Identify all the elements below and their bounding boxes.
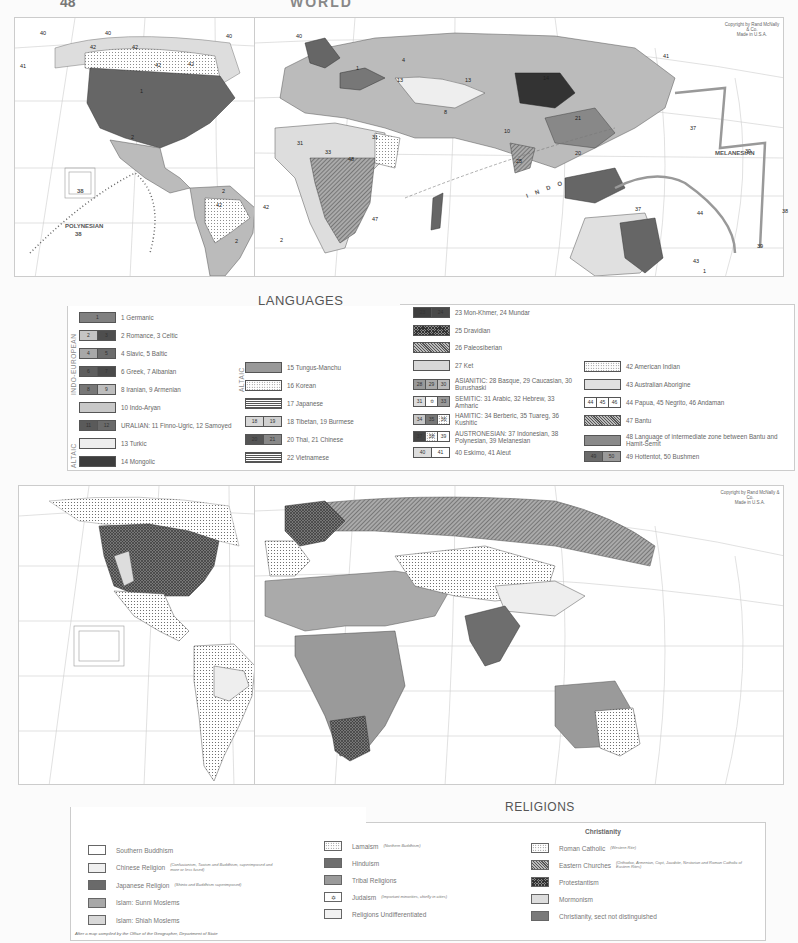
inset-number: 38 xyxy=(77,188,84,194)
language-legend-item: 48 Language of intermediate zone between… xyxy=(584,433,789,447)
legend-swatch: 444546 xyxy=(584,397,621,408)
legend-label: 43 Australian Aborigine xyxy=(626,381,690,388)
page-heading: WORLD xyxy=(290,0,353,10)
legend-label: 18 Tibetan, 19 Burmese xyxy=(287,418,354,425)
legend-label: Protestantism xyxy=(559,879,599,886)
legend-swatch xyxy=(413,360,450,371)
swatch-cell: 4 xyxy=(80,349,98,358)
americas-religions-map xyxy=(19,486,254,785)
legend-label: Hinduism xyxy=(352,860,379,867)
legend-swatch xyxy=(88,880,106,890)
legend-note: (Shinto and Buddhism superimposed) xyxy=(174,883,241,888)
map-region-number: 37 xyxy=(690,125,696,131)
map-region-number: 31 xyxy=(372,134,378,140)
legend-label: 13 Turkic xyxy=(121,440,147,447)
legend-swatch xyxy=(584,435,621,446)
map-region-number: 1 xyxy=(703,268,706,274)
legend-label: 26 Paleosiberian xyxy=(455,344,502,351)
legend-label: ASIANITIC: 28 Basque, 29 Caucasian, 30 B… xyxy=(455,377,578,391)
swatch-cell: 24 xyxy=(432,308,449,317)
source-credit: After a map compiled by the Office of th… xyxy=(75,931,218,936)
legend-label: HAMITIC: 34 Berberic, 35 Tuareg, 36 Kush… xyxy=(455,412,578,426)
page-number: 48 xyxy=(60,0,76,10)
legend-label: URALIAN: 11 Finno-Ugric, 12 Samoyed xyxy=(121,422,231,429)
swatch-cell: 44 xyxy=(585,398,597,407)
language-legend-item: 898 Iranian, 9 Armenian xyxy=(79,384,244,395)
swatch-cell xyxy=(80,403,115,412)
swatch-cell: 34 xyxy=(414,415,426,424)
swatch-cell xyxy=(80,439,115,448)
language-legend-item: 10 Indo-Aryan xyxy=(79,402,244,413)
legend-label: Eastern Churches xyxy=(559,862,611,869)
swatch-cell xyxy=(246,381,281,390)
religion-legend-item: Religions Undifferentiated xyxy=(324,909,426,919)
swatch-cell: 50 xyxy=(603,452,620,461)
swatch-cell: 30 xyxy=(438,380,449,389)
map-region-number: 48 xyxy=(348,156,354,162)
swatch-cell xyxy=(414,361,449,370)
religion-legend-item: Mormonism xyxy=(531,894,593,904)
map-region-number: 40 xyxy=(40,30,46,36)
religions-map-west xyxy=(18,485,254,785)
religion-legend-item: Japanese Religion(Shinto and Buddhism su… xyxy=(88,880,241,890)
legend-label: Lamaism xyxy=(352,843,378,850)
legend-label: Islam: Sunni Moslems xyxy=(116,899,180,906)
swatch-cell xyxy=(246,453,281,462)
religion-legend-item: Lamaism(Northern Buddhism) xyxy=(324,841,421,851)
language-legend-item: 17 Japanese xyxy=(245,398,410,409)
swatch-cell: 3 xyxy=(98,331,115,340)
map-region-number: 13 xyxy=(397,77,403,83)
language-legend-item: 11 Germanic xyxy=(79,312,244,323)
religion-legend-item: Tribal Religions xyxy=(324,875,397,885)
swatch-cell xyxy=(585,380,620,389)
religion-legend-item: Islam: Sunni Moslems xyxy=(88,898,180,908)
swatch-cell: ✡ xyxy=(426,397,438,406)
map-region-number: 8 xyxy=(444,109,447,115)
legend-label: 4 Slavic, 5 Baltic xyxy=(121,350,167,357)
legend-swatch xyxy=(324,858,342,868)
legend-label: 22 Vietnamese xyxy=(287,454,329,461)
eastern-hemisphere-languages-map xyxy=(255,18,784,277)
swatch-cell xyxy=(246,363,281,372)
map-region-number: 44 xyxy=(697,210,703,216)
swatch-cell: 18 xyxy=(246,417,264,426)
legend-swatch xyxy=(413,325,450,336)
language-legend-item: 16 Korean xyxy=(245,380,410,391)
language-legend-item: 676 Greek, 7 Albanian xyxy=(79,366,244,377)
map-region-number: 38 xyxy=(782,208,788,214)
swatch-cell: 8 xyxy=(80,385,98,394)
map-region-number: 25 xyxy=(516,158,522,164)
map-region-number: 42 xyxy=(263,204,269,210)
legend-label: Judaism xyxy=(352,894,376,901)
swatch-cell: 2 xyxy=(80,331,98,340)
swatch-cell: 36 xyxy=(438,415,449,424)
language-legend-item: 202120 Thai, 21 Chinese xyxy=(245,434,410,445)
swatch-cell: 19 xyxy=(264,417,281,426)
legend-swatch: 373839 xyxy=(413,431,450,442)
legend-swatch: 1 xyxy=(79,312,116,323)
swatch-cell xyxy=(414,326,449,335)
legend-label: Mormonism xyxy=(559,896,593,903)
swatch-cell: 12 xyxy=(98,421,115,430)
legend-label: Southern Buddhism xyxy=(116,847,173,854)
map-region-number: 42 xyxy=(188,61,194,67)
legend-label: 25 Dravidian xyxy=(455,327,490,334)
legend-label: Religions Undifferentiated xyxy=(352,911,426,918)
map-region-number: 33 xyxy=(325,149,331,155)
swatch-cell: 33 xyxy=(438,397,449,406)
map-region-number: 1 xyxy=(140,88,143,94)
legend-label: 47 Bantu xyxy=(626,417,651,424)
swatch-cell: 45 xyxy=(597,398,609,407)
legend-swatch xyxy=(79,456,116,467)
language-legend-item: 232423 Mon-Khmer, 24 Mundar xyxy=(413,307,578,318)
map-region-number: 43 xyxy=(693,258,699,264)
legend-swatch xyxy=(245,362,282,373)
legend-label: 20 Thai, 21 Chinese xyxy=(287,436,343,443)
religions-title: RELIGIONS xyxy=(505,800,575,814)
swatch-cell xyxy=(585,416,620,425)
legend-swatch xyxy=(413,342,450,353)
legend-swatch: 4041 xyxy=(413,447,450,458)
christianity-heading: Christianity xyxy=(585,828,621,835)
swatch-cell: 7 xyxy=(98,367,115,376)
swatch-cell: 9 xyxy=(98,385,115,394)
